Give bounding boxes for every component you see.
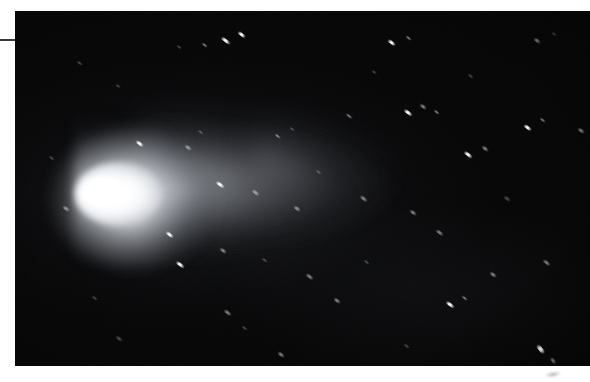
margin-rule	[0, 39, 16, 41]
page-canvas	[0, 0, 590, 382]
comet-photograph	[15, 11, 590, 366]
comet-nucleus-core	[81, 177, 121, 207]
corner-smudge	[545, 370, 562, 379]
